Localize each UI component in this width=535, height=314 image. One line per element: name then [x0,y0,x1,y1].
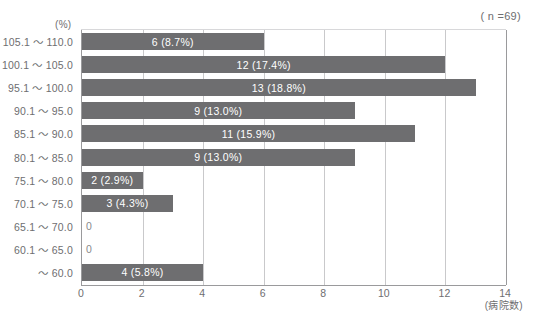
y-axis-label: 100.1 ～ 105.0 [0,53,78,76]
bar-row: 4 (5.8%) [82,261,506,284]
bar-value-label: 4 (5.8%) [116,266,170,278]
x-axis-tick-6: 6 [260,287,266,299]
bar-row: 9 (13.0%) [82,145,506,168]
bar-value-label: 6 (8.7%) [146,36,200,48]
x-axis-tick-10: 10 [378,287,390,299]
bar[interactable]: 6 (8.7%) [82,33,264,50]
bar-value-label: 9 (13.0%) [188,151,248,163]
bar[interactable]: 9 (13.0%) [82,102,355,119]
x-axis-tick-8: 8 [320,287,326,299]
bar-value-label: 9 (13.0%) [188,105,248,117]
x-axis-tick-12: 12 [439,287,451,299]
bar-row: 13 (18.8%) [82,76,506,99]
y-axis-label: 105.1 ～ 110.0 [0,30,78,53]
bar-row: 6 (8.7%) [82,30,506,53]
bar-rows: 6 (8.7%)12 (17.4%)13 (18.8%)9 (13.0%)11 … [82,30,506,285]
bar-row: 0 [82,238,506,261]
bar-value-label: 12 (17.4%) [231,59,297,71]
bar-row: 2 (2.9%) [82,169,506,192]
bar-row: 11 (15.9%) [82,122,506,145]
y-axis-label: 80.1 ～ 85.0 [0,145,78,168]
bar[interactable]: 2 (2.9%) [82,172,143,189]
bar-value-label: 0 [82,243,92,255]
x-axis-tick-2: 2 [139,287,145,299]
y-axis-label: ～ 60.0 [0,261,78,284]
bar-value-label: 11 (15.9%) [216,128,282,140]
y-axis-label: 70.1 ～ 75.0 [0,192,78,215]
y-axis-label: 65.1 ～ 70.0 [0,215,78,238]
y-axis-label: 75.1 ～ 80.0 [0,169,78,192]
x-axis-ticks: 02468101214 [81,287,506,301]
y-axis-label: 60.1 ～ 65.0 [0,238,78,261]
plot-area: 6 (8.7%)12 (17.4%)13 (18.8%)9 (13.0%)11 … [81,30,506,286]
bar-row: 0 [82,215,506,238]
bar-chart: ( n =69) (%) 105.1 ～ 110.0100.1 ～ 105.09… [0,0,535,314]
y-axis-label: 95.1 ～ 100.0 [0,76,78,99]
y-axis-label: 90.1 ～ 95.0 [0,99,78,122]
bar-value-label: 3 (4.3%) [100,197,154,209]
y-axis-label: 85.1 ～ 90.0 [0,122,78,145]
x-axis-tick-4: 4 [199,287,205,299]
bar[interactable]: 4 (5.8%) [82,264,203,281]
bar[interactable]: 9 (13.0%) [82,149,355,166]
bar-row: 12 (17.4%) [82,53,506,76]
x-axis-tick-0: 0 [78,287,84,299]
bar[interactable]: 13 (18.8%) [82,79,476,96]
bar-value-label: 0 [82,220,92,232]
chart-title [30,0,350,9]
y-axis-labels: 105.1 ～ 110.0100.1 ～ 105.095.1 ～ 100.090… [0,30,78,285]
y-axis-unit-label: (%) [55,19,71,30]
bar-row: 3 (4.3%) [82,192,506,215]
bar-row: 9 (13.0%) [82,99,506,122]
bar[interactable]: 12 (17.4%) [82,56,445,73]
bar-value-label: 2 (2.9%) [85,174,139,186]
bar[interactable]: 11 (15.9%) [82,125,415,142]
bar[interactable]: 3 (4.3%) [82,195,173,212]
sample-size-note: ( n =69) [480,10,521,22]
gridline-14 [506,30,507,285]
x-axis-unit-label: (病院数) [485,297,523,312]
bar-value-label: 13 (18.8%) [246,82,312,94]
